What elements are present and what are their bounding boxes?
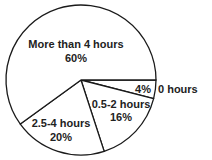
pie-chart: More than 4 hours 60% 2.5-4 hours 20% 0.…: [0, 0, 212, 160]
pie-slices: [6, 5, 156, 155]
value-more-than-4-hours: 60%: [65, 52, 87, 64]
label-0-hours: 0 hours: [158, 83, 198, 95]
label-2-5-to-4-hours: 2.5-4 hours: [32, 117, 91, 129]
value-2-5-to-4-hours: 20%: [50, 131, 72, 143]
label-0-5-to-2-hours: 0.5-2 hours: [92, 98, 151, 110]
label-more-than-4-hours: More than 4 hours: [28, 38, 123, 50]
value-0-5-to-2-hours: 16%: [110, 111, 132, 123]
value-0-hours: 4%: [135, 83, 151, 95]
